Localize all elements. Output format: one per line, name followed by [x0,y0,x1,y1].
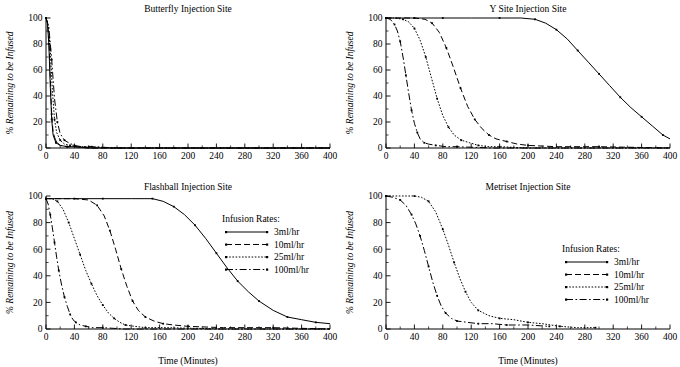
series-marker [45,198,47,200]
x-axis-label: Time (Minutes) [498,356,558,367]
x-tick-label: 320 [266,332,281,342]
series-marker [85,325,87,327]
legend-title: Infusion Rates: [222,214,280,224]
chart-flashball: Flashball Injection Site0408012016020024… [0,178,340,367]
chart-panel-flashball: Flashball Injection Site0408012016020024… [0,178,340,367]
axis-lines [46,196,330,329]
series-marker [69,313,71,315]
x-tick-label: 160 [492,151,507,161]
series-marker [66,146,68,148]
legend-label-3ml-per-hr: 3ml/hr [614,257,640,267]
series-marker [405,74,407,76]
series-line-100ml-per-hr [386,196,549,326]
series-marker [527,145,529,147]
series-marker [548,325,550,327]
y-tick-label: 40 [373,271,383,281]
series-marker [399,199,401,201]
legend-label-10ml-per-hr: 10ml/hr [614,270,645,280]
series-marker [51,113,53,115]
y-axis-label: % Remaining to be Infused [5,31,15,134]
x-tick-label: 80 [438,332,448,342]
figure-root: Butterfly Injection Site0408012016020024… [0,0,680,367]
x-tick-label: 240 [549,332,564,342]
series-line-25ml-per-hr [386,196,595,328]
series-marker [436,98,438,100]
series-marker [91,146,93,148]
chart-panel-ysite: Y Site Injection Site0408012016020024028… [340,0,680,178]
series-marker [499,17,501,19]
x-tick-label: 0 [384,332,389,342]
chart-ysite: Y Site Injection Site0408012016020024028… [340,0,680,178]
x-tick-label: 400 [323,151,338,161]
legend-marker [266,231,268,233]
y-tick-label: 40 [33,91,43,101]
x-tick-label: 360 [294,332,309,342]
series-marker [102,304,104,306]
x-tick-label: 360 [634,332,649,342]
x-tick-label: 240 [549,151,564,161]
legend-label-100ml-per-hr: 100ml/hr [614,295,650,305]
series-marker [79,254,81,256]
series-marker [442,228,444,230]
chart-title: Butterfly Injection Site [144,4,232,14]
legend-marker [266,269,268,271]
x-tick-label: 120 [124,332,139,342]
series-marker [619,96,621,98]
x-tick-label: 0 [44,151,49,161]
series-marker [411,109,413,111]
series-marker [598,146,600,148]
series-marker [96,204,98,206]
series-marker [559,325,561,327]
legend-label-10ml-per-hr: 10ml/hr [274,240,305,250]
series-marker [125,324,127,326]
series-marker [534,18,536,20]
x-tick-label: 400 [663,151,678,161]
legend-marker [606,299,608,301]
chart-metriset: Metriset Injection Site04080120160200240… [340,178,680,367]
series-marker [474,119,476,121]
series-marker [55,141,57,143]
y-tick-label: 0 [38,143,43,153]
legend-marker [266,256,268,258]
x-tick-label: 0 [44,332,49,342]
y-tick-label: 80 [33,39,43,49]
series-marker [499,317,501,319]
series-marker [385,195,387,197]
series-marker [91,283,93,285]
series-marker [132,300,134,302]
series-marker [45,17,47,19]
series-marker [445,312,447,314]
series-marker [419,235,421,237]
series-marker [145,316,147,318]
series-marker [315,321,317,323]
series-marker [74,145,76,147]
series-marker [577,50,579,52]
series-marker [431,22,433,24]
legend-marker [565,274,567,276]
series-marker [414,28,416,30]
series-marker [68,222,70,224]
series-marker [506,141,508,143]
series-marker [162,323,164,325]
series-marker [113,317,115,319]
series-marker [402,18,404,20]
axis-lines [46,18,330,148]
x-tick-label: 280 [578,332,593,342]
series-marker [120,268,122,270]
series-marker [465,291,467,293]
x-tick-label: 40 [70,332,80,342]
series-marker [59,139,61,141]
legend-marker [225,269,227,271]
x-tick-label: 80 [98,151,108,161]
y-tick-label: 80 [373,218,383,228]
x-tick-label: 200 [521,332,536,342]
series-marker [448,126,450,128]
series-marker [69,145,71,147]
legend-marker [266,244,268,246]
x-tick-label: 120 [464,332,479,342]
series-marker [102,327,104,329]
series-marker [460,87,462,89]
series-marker [428,200,430,202]
series-marker [488,134,490,136]
y-tick-label: 20 [33,117,43,127]
